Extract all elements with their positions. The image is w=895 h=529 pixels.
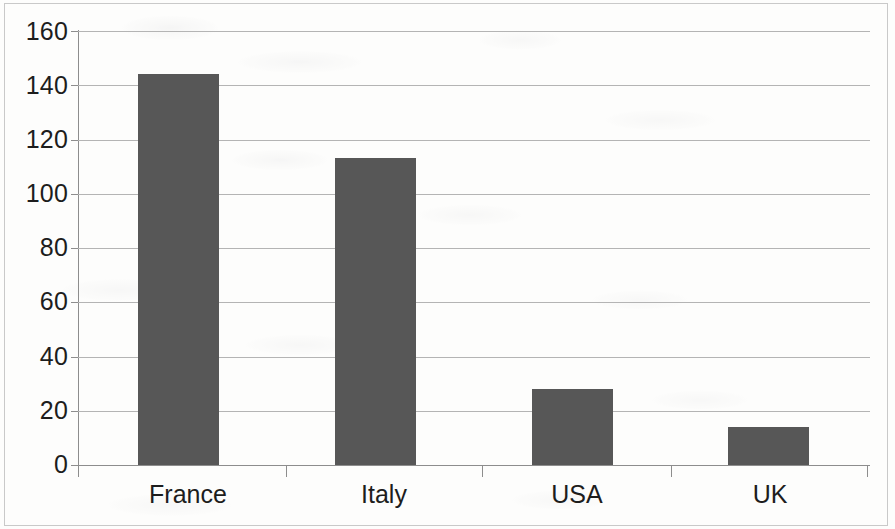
bar-chart: 160 140 120 100 80 60 40 20 0 xyxy=(0,0,895,529)
y-tick-0 xyxy=(71,465,78,466)
x-tick-label-france: France xyxy=(98,482,278,507)
y-tick-label-100: 100 xyxy=(26,181,68,206)
y-tick-label-40: 40 xyxy=(40,344,68,369)
y-tick-60 xyxy=(71,302,78,303)
y-tick-160 xyxy=(71,31,78,32)
y-tick-label-20: 20 xyxy=(40,398,68,423)
category-separator-1 xyxy=(286,465,287,477)
bar-italy xyxy=(335,158,416,465)
gridline-160 xyxy=(78,31,870,32)
y-axis-labels: 160 140 120 100 80 60 40 20 0 xyxy=(0,31,68,465)
y-tick-20 xyxy=(71,411,78,412)
bar-france xyxy=(138,74,219,465)
y-tick-40 xyxy=(71,357,78,358)
y-tick-label-60: 60 xyxy=(40,289,68,314)
x-tick-label-uk: UK xyxy=(676,482,864,507)
y-tick-label-140: 140 xyxy=(26,73,68,98)
gridline-0 xyxy=(78,465,870,466)
bar-usa xyxy=(532,389,613,465)
y-tick-100 xyxy=(71,194,78,195)
x-tick-label-italy: Italy xyxy=(291,482,477,507)
y-tick-140 xyxy=(71,85,78,86)
y-tick-label-80: 80 xyxy=(40,235,68,260)
x-axis-start-cap xyxy=(78,465,79,477)
x-tick-label-usa: USA xyxy=(487,482,667,507)
category-separator-3 xyxy=(671,465,672,477)
y-tick-label-120: 120 xyxy=(26,127,68,152)
y-tick-80 xyxy=(71,248,78,249)
y-tick-120 xyxy=(71,140,78,141)
y-tick-label-0: 0 xyxy=(54,452,68,477)
y-tick-label-160: 160 xyxy=(26,19,68,44)
plot-area xyxy=(78,31,870,465)
category-separator-2 xyxy=(482,465,483,477)
bar-uk xyxy=(728,427,809,465)
x-axis-end-cap xyxy=(867,465,868,477)
